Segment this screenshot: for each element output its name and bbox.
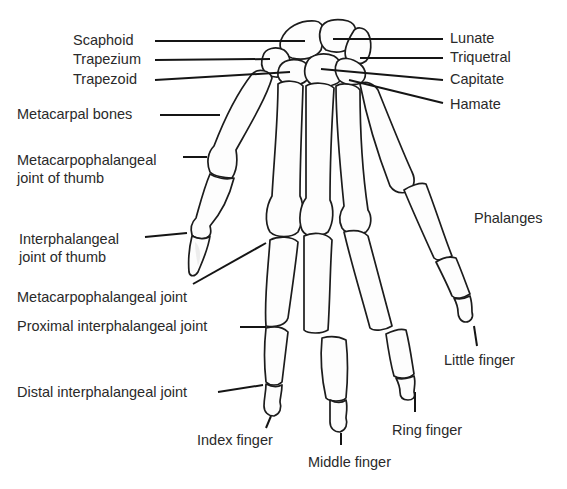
label-ring-finger: Ring finger [392, 422, 462, 439]
label-trapezium: Trapezium [73, 51, 141, 68]
label-dip-joint: Distal interphalangeal joint [17, 384, 187, 401]
carpal-bones [262, 20, 371, 87]
ring-distal-phalanx [396, 376, 415, 400]
label-triquetral: Triquetral [450, 49, 511, 66]
label-mcp-thumb-line2: joint of thumb [17, 170, 104, 187]
middle-distal-phalanx [330, 400, 347, 432]
leader-index-finger [266, 416, 271, 428]
leader-little-finger [474, 326, 477, 346]
label-mcp-thumb-line1: Metacarpophalangeal [17, 152, 156, 169]
thumb-bones [189, 71, 272, 276]
index-proximal-phalanx [265, 237, 298, 326]
label-mcp-joint: Metacarpophalangeal joint [17, 289, 187, 306]
middle-proximal-phalanx [304, 233, 332, 333]
index-distal-phalanx [264, 384, 282, 416]
hand-bones-diagram: Scaphoid Trapezium Trapezoid Metacarpal … [0, 0, 567, 489]
ring-proximal-phalanx [344, 231, 392, 330]
little-metacarpal [360, 82, 414, 192]
label-lunate: Lunate [450, 30, 494, 47]
label-ip-thumb-line2: joint of thumb [19, 249, 106, 266]
ring-middle-phalanx [386, 329, 414, 378]
label-pip-joint: Proximal interphalangeal joint [17, 318, 207, 335]
label-ip-thumb-line1: Interphalangeal [19, 231, 119, 248]
label-hamate: Hamate [450, 96, 501, 113]
thumb-proximal-phalanx [191, 174, 234, 239]
label-scaphoid: Scaphoid [73, 32, 133, 49]
index-finger-bones [264, 81, 303, 416]
label-little-finger: Little finger [444, 352, 515, 369]
index-metacarpal [266, 81, 303, 236]
leader-trapezium [155, 59, 270, 60]
label-capitate: Capitate [450, 71, 504, 88]
index-middle-phalanx [265, 327, 289, 385]
little-distal-phalanx [454, 296, 473, 322]
label-metacarpal-bones: Metacarpal bones [17, 106, 132, 123]
middle-middle-phalanx [321, 337, 347, 401]
label-trapezoid: Trapezoid [73, 71, 137, 88]
little-middle-phalanx [436, 257, 470, 298]
leader-dip-joint [218, 385, 263, 392]
little-proximal-phalanx [404, 183, 452, 260]
middle-metacarpal [300, 83, 334, 236]
label-middle-finger: Middle finger [308, 454, 391, 471]
label-index-finger: Index finger [197, 432, 273, 449]
thumb-metacarpal [208, 71, 272, 178]
leader-ip-thumb [145, 233, 187, 237]
label-phalanges: Phalanges [474, 210, 543, 227]
